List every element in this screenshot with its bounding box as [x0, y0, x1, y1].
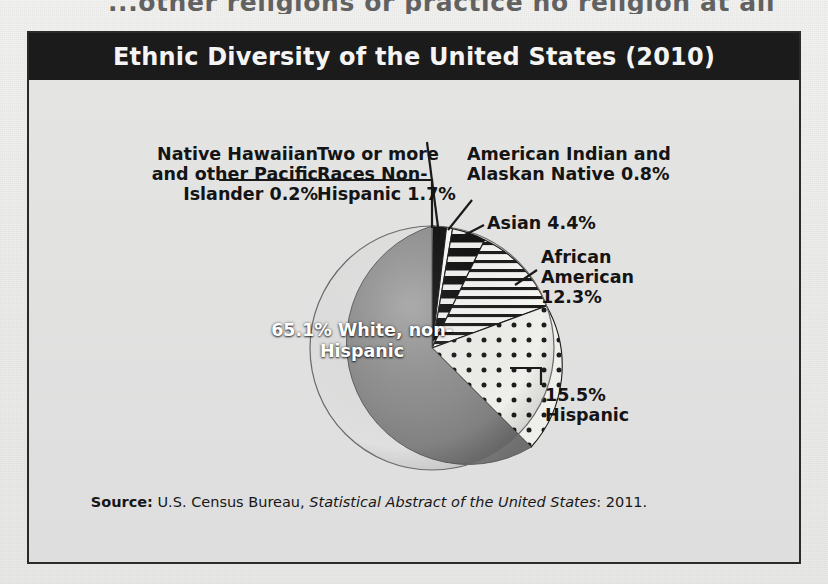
source-note: Source: U.S. Census Bureau, Statistical … [89, 492, 649, 514]
label-white-non-hispanic: 65.1% White, non-Hispanic [267, 320, 457, 362]
source-prefix: Source: [91, 494, 153, 510]
label-native-hawaiian: Native Hawaiian and other Pacific Island… [148, 145, 318, 205]
figure-panel: Ethnic Diversity of the United States (2… [27, 31, 801, 564]
figure-title-bar: Ethnic Diversity of the United States (2… [29, 33, 799, 80]
label-american-indian: American Indian and Alaskan Native 0.8% [467, 145, 677, 185]
label-hispanic: 15.5% Hispanic [545, 386, 695, 426]
figure-title: Ethnic Diversity of the United States (2… [113, 43, 715, 71]
source-italic-title: Statistical Abstract of the United State… [309, 494, 596, 510]
source-text: U.S. Census Bureau, [153, 494, 309, 510]
label-asian: Asian 4.4% [487, 214, 687, 234]
page-bleed-text: ...other religions or practice no religi… [108, 0, 808, 14]
pie-chart-plot-area: Native Hawaiian and other Pacific Island… [29, 80, 799, 562]
source-suffix: : 2011. [596, 494, 647, 510]
label-african-american: African American 12.3% [541, 248, 691, 308]
